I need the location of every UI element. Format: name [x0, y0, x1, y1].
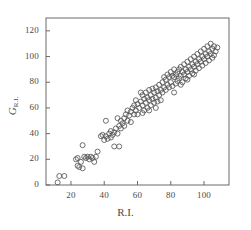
x-axis-title: R.I.	[0, 206, 251, 218]
y-axis-title-base: G	[6, 107, 18, 115]
x-tick-label: 100	[184, 190, 224, 200]
scatter-plot-figure: 020406080100120 20406080100 GR.I. R.I.	[0, 0, 251, 230]
axis-ticks	[46, 31, 204, 185]
y-tick-label: 120	[0, 25, 39, 35]
data-point	[188, 57, 193, 62]
data-point	[185, 59, 190, 64]
data-point	[172, 90, 177, 95]
data-point	[148, 103, 153, 108]
data-point	[115, 131, 120, 136]
data-point	[112, 144, 117, 149]
data-point	[80, 166, 85, 171]
data-point	[153, 105, 158, 110]
data-point	[205, 44, 210, 49]
data-point	[160, 80, 165, 85]
data-point	[157, 82, 162, 87]
y-tick-label: 20	[0, 153, 39, 163]
data-point	[182, 62, 187, 67]
data-point	[192, 54, 197, 59]
data-point	[143, 90, 148, 95]
y-axis-title-subscript: R.I.	[12, 97, 20, 108]
data-point	[93, 154, 98, 159]
data-point	[57, 174, 62, 179]
data-point	[55, 180, 60, 185]
y-tick-label: 80	[0, 76, 39, 86]
data-point	[115, 116, 120, 121]
data-point	[125, 118, 130, 123]
y-tick-label: 0	[0, 179, 39, 189]
data-point	[117, 144, 122, 149]
data-point	[195, 51, 200, 56]
data-point	[80, 143, 85, 148]
data-point	[172, 67, 177, 72]
data-point	[128, 120, 133, 125]
data-point	[147, 87, 152, 92]
y-tick-label: 100	[0, 51, 39, 61]
data-points	[55, 41, 220, 185]
data-point	[78, 159, 83, 164]
data-point	[95, 149, 100, 154]
data-point	[208, 41, 213, 46]
y-axis-title: GR.I.	[2, 92, 20, 132]
data-point	[202, 46, 207, 51]
data-point	[103, 118, 108, 123]
data-point	[158, 98, 163, 103]
data-point	[198, 49, 203, 54]
data-point	[62, 174, 67, 179]
